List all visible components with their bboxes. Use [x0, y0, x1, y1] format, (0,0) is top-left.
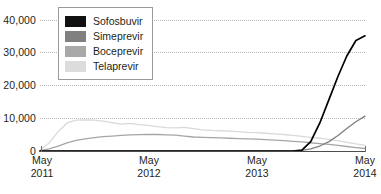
- y-axis-label-40000: 40,000: [0, 15, 36, 26]
- x-axis-label-may-2014-year: 2014: [335, 167, 381, 180]
- series-line-telaprevir: [40, 120, 365, 150]
- legend-label-telaprevir: Telaprevir: [93, 61, 139, 72]
- y-axis-label-10000: 10,000: [0, 113, 36, 124]
- legend-item-sofosbuvir: Sofosbuvir: [65, 14, 143, 28]
- x-tick-2011: [41, 146, 42, 152]
- x-axis-label-may-2013: May 2013: [227, 154, 287, 179]
- x-axis-label-may-2013-month: May: [227, 154, 287, 167]
- legend-label-simeprevir: Simeprevir: [93, 31, 143, 42]
- legend-label-sofosbuvir: Sofosbuvir: [93, 16, 143, 27]
- legend-swatch-sofosbuvir: [65, 16, 86, 27]
- legend-swatch-boceprevir: [65, 46, 86, 57]
- x-axis-label-may-2014-month: May: [335, 154, 381, 167]
- x-axis-label-may-2011-month: May: [12, 154, 72, 167]
- y-axis-label-20000: 20,000: [0, 80, 36, 91]
- x-axis-label-may-2013-year: 2013: [227, 167, 287, 180]
- x-axis-label-may-2012-month: May: [119, 154, 179, 167]
- x-axis-label-may-2012: May 2012: [119, 154, 179, 179]
- x-axis-line: [40, 151, 366, 152]
- x-axis-label-may-2014: May 2014: [335, 154, 381, 179]
- x-axis-label-may-2012-year: 2012: [119, 167, 179, 180]
- series-line-boceprevir: [40, 135, 365, 151]
- x-axis-label-may-2011-year: 2011: [12, 167, 72, 180]
- y-axis-label-30000: 30,000: [0, 47, 36, 58]
- legend-swatch-simeprevir: [65, 31, 86, 42]
- legend-item-telaprevir: Telaprevir: [65, 59, 143, 73]
- chart-legend: Sofosbuvir Simeprevir Boceprevir Telapre…: [58, 7, 153, 80]
- x-axis-label-may-2011: May 2011: [12, 154, 72, 179]
- legend-label-boceprevir: Boceprevir: [93, 46, 143, 57]
- series-line-simeprevir: [40, 116, 365, 151]
- legend-item-boceprevir: Boceprevir: [65, 44, 143, 58]
- legend-swatch-telaprevir: [65, 61, 86, 72]
- legend-item-simeprevir: Simeprevir: [65, 29, 143, 43]
- x-tick-2014: [365, 146, 366, 152]
